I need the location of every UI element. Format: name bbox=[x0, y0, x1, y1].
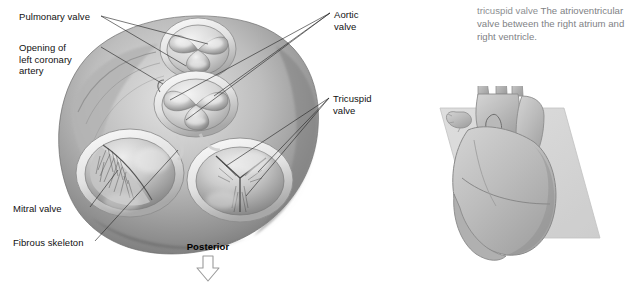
label-mitral-valve: Mitral valve bbox=[13, 203, 62, 215]
glossary-entry: tricuspid valve The atrioventricular val… bbox=[477, 4, 627, 44]
heart-silhouette bbox=[446, 86, 556, 260]
label-opening-of-left-coronary-artery: Opening of left coronary artery bbox=[19, 42, 72, 77]
figure-page: Pulmonary valve Opening of left coronary… bbox=[0, 0, 628, 288]
heart-orientation-thumbnail-svg bbox=[404, 86, 628, 286]
label-aortic-valve: Aortic valve bbox=[334, 9, 359, 32]
label-pulmonary-valve: Pulmonary valve bbox=[19, 11, 90, 23]
orientation-marker: Posterior bbox=[168, 241, 248, 283]
glossary-term: tricuspid valve bbox=[477, 5, 538, 16]
heart-orientation-thumbnail bbox=[404, 86, 628, 286]
aortic-valve-structure bbox=[154, 71, 238, 137]
arrow-down-outline-icon bbox=[195, 255, 221, 283]
label-tricuspid-valve: Tricuspid valve bbox=[333, 93, 372, 116]
label-fibrous-skeleton: Fibrous skeleton bbox=[13, 237, 84, 249]
tricuspid-valve-structure bbox=[187, 138, 293, 222]
orientation-label: Posterior bbox=[168, 241, 248, 252]
